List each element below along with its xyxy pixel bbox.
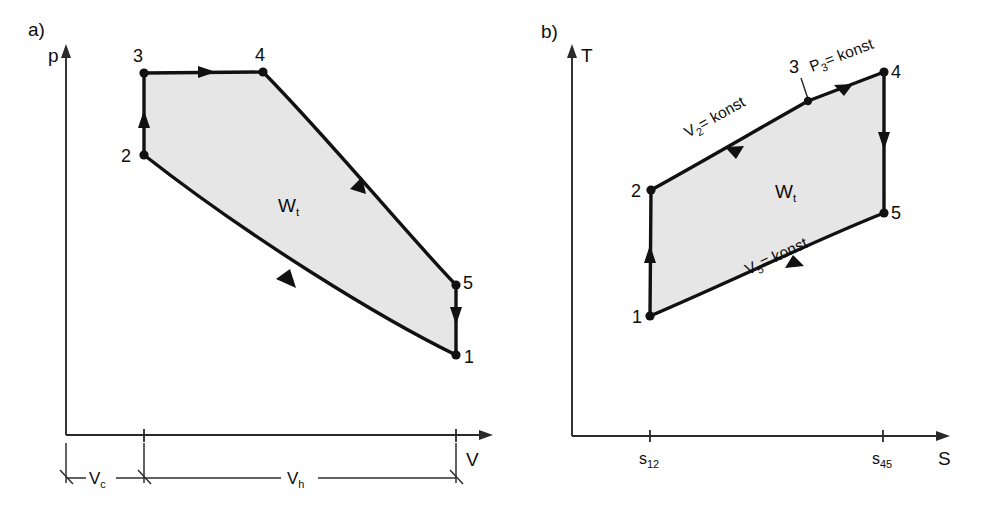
y-axis-label-b: T xyxy=(581,45,593,66)
dimension-label-vc-main: V xyxy=(89,469,101,488)
work-label-a-main: W xyxy=(278,195,296,216)
x-axis-label-a: V xyxy=(466,449,479,470)
state-label-2-b: 2 xyxy=(631,181,641,201)
leader-line-3-b xyxy=(801,78,808,99)
tick-label-s45-main: s xyxy=(872,450,880,467)
state-dot-2-a xyxy=(139,150,148,159)
process-label-v2-konst: V2= konst xyxy=(681,93,750,144)
state-dot-5-a xyxy=(451,280,460,289)
direction-arrow-1-2-a xyxy=(276,269,296,288)
state-dot-4-a xyxy=(258,67,267,76)
dimension-label-vh-main: V xyxy=(287,469,299,488)
dimension-label-vc: Vc xyxy=(89,469,106,490)
panel-a-label: a) xyxy=(28,19,45,40)
diagram-canvas: a) p V 3 4 2 5 1 Wt Vc Vh xyxy=(0,0,990,507)
dimension-label-vh-sub: h xyxy=(298,478,304,490)
work-area-b xyxy=(650,72,884,316)
dimension-label-vc-sub: c xyxy=(100,478,106,490)
state-dot-2-b xyxy=(646,185,655,194)
state-dot-4-b xyxy=(879,67,888,76)
tick-label-s12-sub: 12 xyxy=(647,458,659,470)
x-axis-label-b: S xyxy=(938,448,951,469)
state-dot-1-b xyxy=(645,311,654,320)
y-axis-label-a: p xyxy=(48,45,59,66)
process-label-p3-rest: = konst xyxy=(822,35,876,69)
state-dot-3-a xyxy=(139,68,148,77)
state-label-5-a: 5 xyxy=(463,273,473,293)
tick-label-s45: s45 xyxy=(872,450,892,470)
state-label-4-a: 4 xyxy=(255,45,265,65)
panel-b: b) T S 1 2 3 4 5 Wt V2= konst P3= konst … xyxy=(541,21,951,470)
thermodynamic-cycle-figure: a) p V 3 4 2 5 1 Wt Vc Vh xyxy=(0,0,990,507)
state-label-2-a: 2 xyxy=(121,146,131,166)
state-label-3-b: 3 xyxy=(789,57,799,77)
tick-label-s12-main: s xyxy=(639,450,647,467)
state-label-4-b: 4 xyxy=(891,62,901,82)
work-area-a xyxy=(144,72,456,355)
dimension-label-vh: Vh xyxy=(287,469,304,490)
tick-label-s12: s12 xyxy=(639,450,659,470)
state-dot-3-b xyxy=(804,97,812,105)
process-label-v2-rest: = konst xyxy=(695,93,748,133)
y-axis-arrow-a xyxy=(61,44,71,58)
state-label-5-b: 5 xyxy=(891,203,901,223)
state-dot-1-a xyxy=(451,350,460,359)
x-axis-arrow-a xyxy=(479,430,493,440)
process-label-p3-konst: P3= konst xyxy=(807,35,877,78)
state-label-3-a: 3 xyxy=(133,46,143,66)
y-axis-arrow-b xyxy=(567,44,577,58)
panel-b-label: b) xyxy=(541,21,558,42)
work-label-b-main: W xyxy=(775,181,793,202)
panel-a: a) p V 3 4 2 5 1 Wt Vc Vh xyxy=(28,19,493,490)
state-dot-5-b xyxy=(879,208,888,217)
x-axis-arrow-b xyxy=(936,431,950,441)
state-label-1-a: 1 xyxy=(464,347,474,367)
state-label-1-b: 1 xyxy=(632,307,642,327)
tick-label-s45-sub: 45 xyxy=(880,458,892,470)
